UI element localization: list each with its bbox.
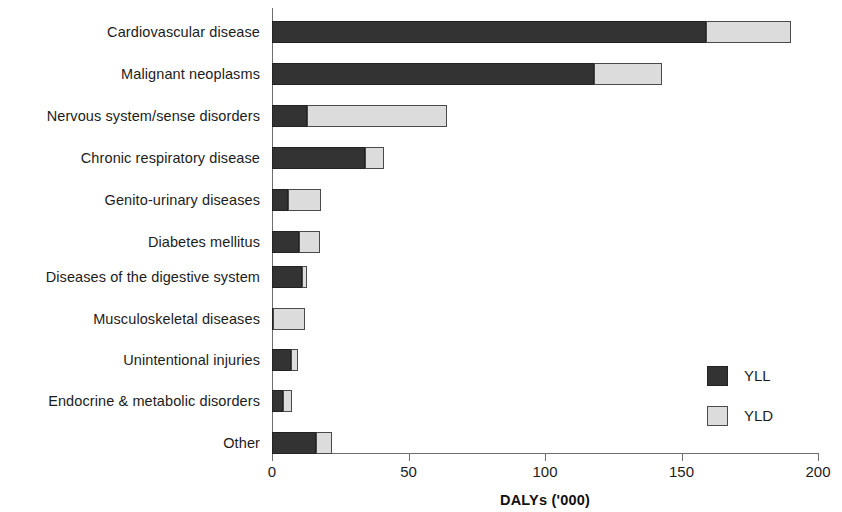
light-square-swatch	[707, 406, 728, 426]
category-label: Chronic respiratory disease	[81, 150, 260, 166]
bar-row	[272, 349, 818, 371]
category-label: Genito-urinary diseases	[105, 192, 260, 208]
category-label: Nervous system/sense disorders	[47, 108, 260, 124]
bar-segment-yld	[307, 105, 446, 127]
bar-segment-yld	[365, 147, 384, 169]
bar-segment-yll	[272, 349, 291, 371]
bar-row	[272, 231, 818, 253]
bar-row	[272, 147, 818, 169]
bar-row	[272, 189, 818, 211]
bar-segment-yll	[272, 189, 288, 211]
x-tick	[409, 454, 410, 461]
category-label: Malignant neoplasms	[121, 66, 260, 82]
x-tick-label: 0	[268, 463, 276, 480]
legend-label: YLL	[744, 367, 771, 384]
category-label: Unintentional injuries	[123, 352, 260, 368]
dalys-stacked-bar-chart: Cardiovascular diseaseMalignant neoplasm…	[0, 0, 842, 512]
category-label: Musculoskeletal diseases	[93, 311, 260, 327]
plot-area: 050100150200 DALYs ('000)	[272, 8, 818, 453]
category-label: Endocrine & metabolic disorders	[48, 393, 260, 409]
bar-segment-yld	[299, 231, 319, 253]
bar-segment-yll	[272, 105, 307, 127]
bar-row	[272, 308, 818, 330]
bar-row	[272, 21, 818, 43]
bar-segment-yll	[272, 63, 594, 85]
bar-segment-yll	[272, 21, 706, 43]
category-label: Cardiovascular disease	[107, 24, 260, 40]
category-label: Other	[223, 435, 260, 451]
legend-label: YLD	[744, 407, 773, 424]
bar-segment-yll	[272, 432, 316, 454]
bar-segment-yld	[316, 432, 332, 454]
bar-segment-yld	[273, 308, 304, 330]
x-tick	[818, 454, 819, 461]
bar-row	[272, 390, 818, 412]
bar-segment-yll	[272, 390, 283, 412]
bar-row	[272, 63, 818, 85]
x-tick-label: 200	[805, 463, 830, 480]
x-tick	[272, 454, 273, 461]
bar-segment-yld	[283, 390, 293, 412]
bar-row	[272, 432, 818, 454]
bar-segment-yll	[272, 231, 299, 253]
x-tick	[545, 454, 546, 461]
bar-row	[272, 266, 818, 288]
x-tick-label: 150	[669, 463, 694, 480]
bar-segment-yld	[288, 189, 321, 211]
x-tick	[682, 454, 683, 461]
bar-row	[272, 105, 818, 127]
bar-segment-yld	[291, 349, 298, 371]
bar-segment-yll	[272, 266, 302, 288]
bar-segment-yld	[706, 21, 791, 43]
bar-segment-yld	[302, 266, 307, 288]
x-tick-label: 100	[532, 463, 557, 480]
category-label: Diabetes mellitus	[148, 234, 260, 250]
category-label: Diseases of the digestive system	[46, 269, 260, 285]
bar-segment-yld	[594, 63, 662, 85]
x-axis-title: DALYs ('000)	[272, 492, 818, 508]
dark-square-swatch	[707, 366, 728, 386]
x-tick-label: 50	[400, 463, 417, 480]
category-axis-labels: Cardiovascular diseaseMalignant neoplasm…	[0, 0, 266, 460]
bar-segment-yll	[272, 147, 365, 169]
